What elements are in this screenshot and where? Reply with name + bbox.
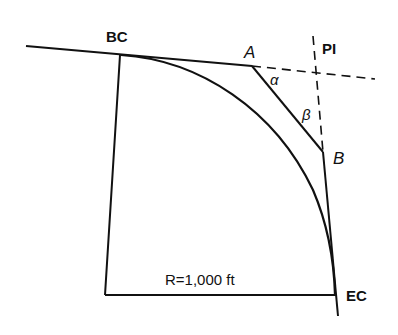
chord-ab (252, 66, 323, 152)
label-pi: PI (322, 40, 336, 57)
label-bc: BC (106, 28, 128, 45)
radius-line-bc (105, 55, 120, 295)
label-ec: EC (346, 287, 367, 304)
label-point-b: B (333, 149, 344, 168)
curve-diagram: BC PI A α β B R=1,000 ft EC (0, 0, 398, 335)
label-beta: β (301, 106, 311, 123)
label-radius: R=1,000 ft (165, 271, 235, 288)
label-point-a: A (243, 43, 255, 62)
label-alpha: α (270, 71, 279, 88)
circular-curve (121, 55, 335, 295)
